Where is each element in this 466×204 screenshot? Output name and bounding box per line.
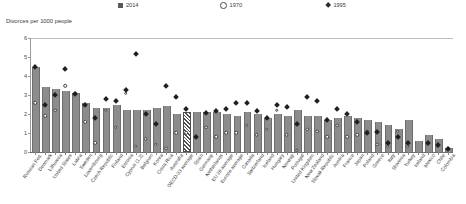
data-point-1995 [63,66,68,71]
chart-legend: 2014 1970 1995 [118,2,418,14]
data-point-1970 [356,133,360,137]
data-point-1995 [184,106,189,111]
filled-diamond-icon [325,2,331,8]
data-point-1970 [84,120,88,124]
y-tick-mark [28,114,31,115]
data-point-1970 [265,127,269,131]
bar-swatch-icon [118,3,123,8]
data-point-1970 [396,129,400,133]
data-point-1970 [235,131,239,135]
bar [244,112,252,152]
y-tick-mark [28,38,31,39]
data-point-1970 [325,135,329,139]
data-point-1995 [133,51,138,56]
bar [264,118,272,152]
bar [375,122,383,152]
y-tick-mark [28,95,31,96]
y-tick-mark [28,57,31,58]
bar [314,116,322,152]
open-circle-icon [220,2,227,9]
legend-item-1995: 1995 [326,2,346,8]
data-point-1970 [285,133,289,137]
data-point-1970 [164,146,168,150]
bar [163,106,171,152]
data-point-1995 [244,100,249,105]
data-point-1995 [304,94,309,99]
data-point-1970 [63,84,67,88]
y-tick-mark [28,76,31,77]
data-point-1970 [376,143,380,147]
data-point-1970 [184,131,188,135]
data-point-1970 [305,127,309,131]
data-point-1970 [43,114,47,118]
data-point-1995 [274,102,279,107]
bar [123,110,131,152]
data-point-1970 [154,143,158,147]
legend-item-1970: 1970 [220,2,242,9]
legend-label: 1995 [333,2,345,8]
data-point-1995 [284,104,289,109]
bar [42,87,50,152]
data-point-1970 [114,126,118,130]
bar [294,110,302,152]
bar [304,116,312,152]
bar [62,91,70,152]
data-point-1970 [94,141,98,145]
data-point-1970 [225,131,229,135]
data-point-1970 [33,101,37,105]
data-point-1970 [204,126,208,130]
data-point-1995 [103,96,108,101]
data-point-1995 [254,108,259,113]
data-point-1970 [345,135,349,139]
y-axis-line [30,38,31,152]
y-axis-title: Divorces per 1000 people [6,18,72,24]
data-point-1970 [315,129,319,133]
legend-item-2014: 2014 [118,2,138,8]
x-axis-labels: Russian Fed.DenmarkLithuaniaUnited State… [30,153,460,203]
data-point-1995 [224,106,229,111]
data-point-1995 [173,94,178,99]
bar [103,108,111,152]
bar [32,67,40,153]
data-point-1970 [104,108,108,112]
data-point-1995 [314,98,319,103]
data-point-1970 [215,135,219,139]
legend-label: 1970 [230,2,242,8]
bar [82,103,90,152]
legend-label: 2014 [126,2,138,8]
data-point-1970 [144,137,148,141]
plot-area: 0123456 [30,38,453,152]
data-point-1970 [245,124,249,128]
bar [203,112,211,152]
data-point-1995 [234,100,239,105]
bar [52,89,60,152]
data-point-1970 [255,133,259,137]
plot-top-border [30,38,453,39]
chart-container: 2014 1970 1995 Divorces per 1000 people … [0,0,466,204]
bar [72,93,80,152]
bar [193,112,201,152]
bar [364,120,372,152]
data-point-1995 [113,98,118,103]
bar [143,110,151,152]
data-point-1995 [335,106,340,111]
data-point-1970 [295,148,299,152]
bar [213,112,221,152]
data-point-1970 [53,108,57,112]
data-point-1995 [163,83,168,88]
bar [274,114,282,152]
y-tick-mark [28,133,31,134]
data-point-1970 [335,124,339,128]
data-point-1970 [174,131,178,135]
data-point-1970 [134,145,138,149]
data-point-1970 [275,108,279,112]
bar [415,141,423,152]
bar [344,116,352,152]
